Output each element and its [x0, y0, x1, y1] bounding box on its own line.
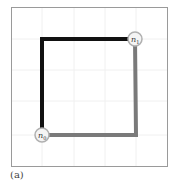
figure-frame: [12, 8, 168, 167]
grid-lines: [12, 8, 167, 166]
figure-caption: (a): [10, 169, 24, 180]
gray-path: [42, 39, 136, 135]
graph-nodes: n0n1: [35, 32, 142, 142]
edge-paths: [42, 39, 136, 135]
node-n0: n0: [35, 128, 49, 142]
black-path: [42, 39, 135, 135]
node-n1: n1: [128, 32, 142, 46]
figure-diagram: n0n1: [0, 0, 177, 188]
